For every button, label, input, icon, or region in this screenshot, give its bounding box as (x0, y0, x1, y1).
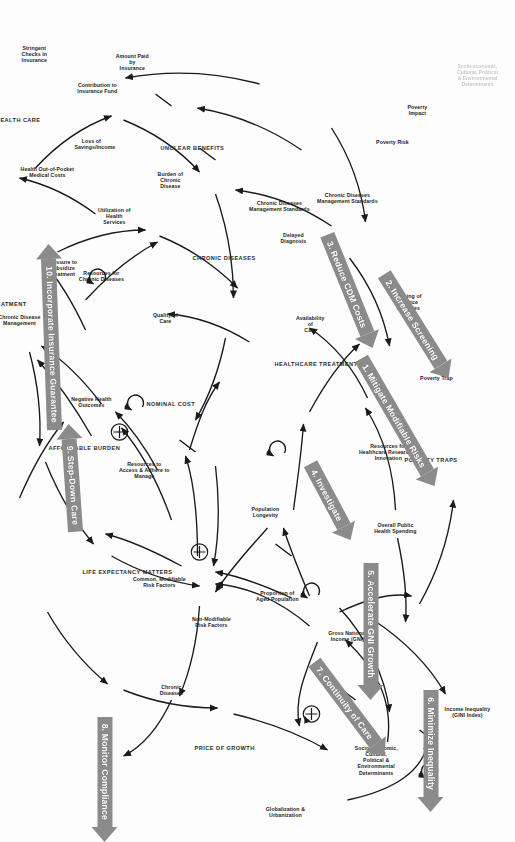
node-contribution-fund: Contribution to Insurance Fund (66, 82, 128, 94)
polarity-marker-plus-3 (108, 421, 130, 443)
loop-caption-gaps-continuity: GAPS IN CONTINUITY OF HEALTH CARE (0, 117, 40, 123)
arrow-head-icon (417, 797, 443, 812)
node-access-adhere: Resources to Access & Adhere to Manage (113, 461, 175, 479)
intervention-label-8: 8. Monitor Compliance (99, 724, 109, 820)
polarity-marker-plus-2 (188, 541, 210, 563)
node-proportion-aged: Proportion of Aged Population (254, 590, 300, 602)
node-poverty-risk: Poverty Risk (375, 139, 409, 145)
diagram-page: Socio-economic, Cultural, Political & En… (0, 0, 515, 842)
node-common-modifiable-risks: Common, Modifiable Risk Factors (128, 576, 190, 588)
intervention-arrow-5[interactable]: 5. Accelerate GNI Growth (357, 563, 383, 700)
arrow-head-icon (91, 827, 117, 842)
loop-caption-unclear-benefits: UNCLEAR BENEFITS (160, 145, 224, 151)
loop-caption-price-of-growth: PRICE OF GROWTH (194, 745, 254, 751)
node-utilization: Utilization of Health Services (97, 207, 131, 225)
node-negative-outcomes: Negative Health Outcomes (68, 396, 114, 408)
intervention-arrow-8[interactable]: 8. Monitor Compliance (91, 717, 117, 842)
arrow-head-icon (357, 685, 383, 700)
node-burden-chronic: Burden of Chronic Disease (153, 171, 187, 189)
node-loss-savings: Loss of Savings/Income (74, 138, 108, 150)
node-population-longevity: Population Longevity (248, 506, 282, 518)
node-poverty-impact: Poverty Impact (400, 104, 434, 116)
node-out-of-pocket-costs: Health Out-of-Pocket Medical Costs (16, 166, 78, 178)
polarity-marker-plus-1 (300, 703, 322, 725)
node-public-health-spending: Overall Public Health Spending (372, 522, 418, 534)
loop-caption-life-expectancy: LIFE EXPECTANCY MATTERS (82, 569, 172, 575)
loop-caption-healthcare-treatment: HEALTHCARE TREATMENT (274, 361, 357, 367)
polarity-marker-balancing-3 (266, 439, 288, 461)
node-quality-of-care: Quality of Care (148, 312, 182, 324)
intervention-label-9: 9. Step-Down Care (65, 445, 81, 525)
node-delayed-diagnosis: Delayed Diagnosis (276, 232, 310, 244)
node-non-modifiable-risks: Non-Modifiable Risk Factors (188, 616, 234, 628)
corner-note: Socio-economic, Cultural, Political & En… (442, 63, 512, 87)
node-management-standards: Chronic Diseases Management Standards (248, 200, 310, 212)
node-fragmented-standards: Chronic Diseases Management Standards (316, 192, 378, 204)
intervention-label-5: 5. Accelerate GNI Growth (365, 570, 375, 678)
loop-caption-nominal-cost: NOMINAL COST (146, 401, 195, 407)
intervention-arrow-6[interactable]: 6. Minimize Inequality (417, 690, 443, 812)
loop-caption-subsidize-treatment: SUBSIDIZE TREATMENT (0, 301, 26, 307)
node-stringent-checks: Stringent Checks in Insurance (17, 45, 51, 63)
polarity-marker-balancing-5 (86, 267, 108, 289)
node-globalization: Globalization & Urbanization (262, 806, 308, 818)
node-income-inequality: Income Inequality (GINI Index) (444, 706, 490, 718)
rotated-canvas: Socio-economic, Cultural, Political & En… (0, 0, 515, 842)
loop-caption-chronic-diseases: CHRONIC DISEASES (192, 255, 255, 261)
polarity-marker-balancing-4 (124, 393, 146, 415)
intervention-label-10: 10. Incorporate Insurance Guarantee (44, 266, 59, 423)
node-cd-management: Chronic Disease Management (0, 314, 42, 326)
node-amount-paid: Amount Paid by Insurance (115, 53, 149, 71)
node-chronic-diseases: Chronic Diseases (154, 684, 188, 696)
node-availability-of-care: Availability of Care (293, 315, 327, 333)
diagram-canvas: Socio-economic, Cultural, Political & En… (0, 0, 515, 842)
polarity-marker-balancing-2 (300, 581, 322, 603)
link-group (19, 73, 453, 800)
arrow-head-icon (35, 244, 62, 260)
intervention-label-6: 6. Minimize Inequality (425, 697, 435, 790)
